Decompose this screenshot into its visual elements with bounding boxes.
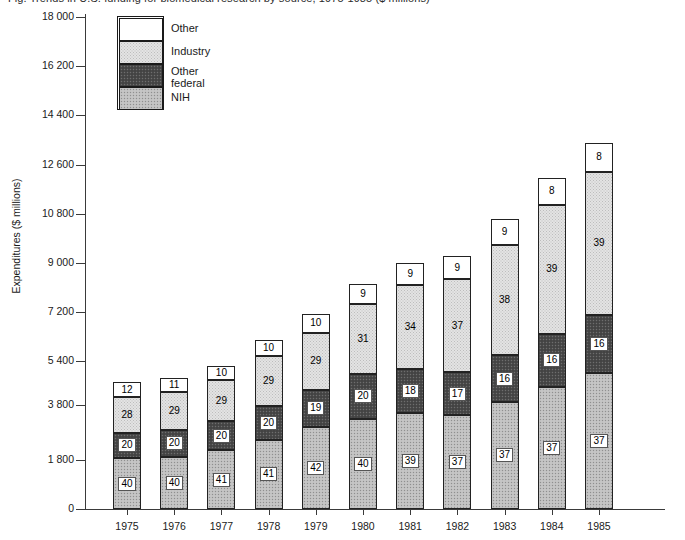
segment-other-federal-1982[interactable]: 17 xyxy=(443,372,471,415)
value-label: 37 xyxy=(543,441,560,455)
legend: OtherIndustryOther federalNIH xyxy=(117,16,237,112)
segment-nih-1981[interactable]: 39 xyxy=(396,413,424,509)
segment-other-federal-1978[interactable]: 20 xyxy=(255,406,283,440)
segment-other-1984[interactable]: 8 xyxy=(538,178,566,204)
segment-other-1980[interactable]: 9 xyxy=(349,284,377,304)
segment-nih-1978[interactable]: 41 xyxy=(255,440,283,509)
segment-nih-1985[interactable]: 37 xyxy=(585,373,613,509)
segment-other-federal-1979[interactable]: 19 xyxy=(302,390,330,427)
x-axis-label-1978: 1978 xyxy=(246,520,292,532)
value-label: 37 xyxy=(590,434,607,448)
value-label: 10 xyxy=(261,342,276,354)
legend-swatch-nih xyxy=(119,87,163,110)
segment-nih-1980[interactable]: 40 xyxy=(349,419,377,509)
segment-other-federal-1983[interactable]: 16 xyxy=(491,355,519,401)
segment-other-1979[interactable]: 10 xyxy=(302,314,330,334)
segment-nih-1984[interactable]: 37 xyxy=(538,387,566,509)
x-axis-label-1977: 1977 xyxy=(198,520,244,532)
segment-industry-1983[interactable]: 38 xyxy=(491,245,519,355)
x-axis-tick xyxy=(316,509,317,515)
y-axis-tick xyxy=(76,214,85,215)
legend-swatch-industry xyxy=(119,41,163,64)
legend-label-other-federal: Other federal xyxy=(171,66,205,89)
value-label: 16 xyxy=(543,353,560,367)
segment-other-1978[interactable]: 10 xyxy=(255,340,283,357)
value-label: 20 xyxy=(118,438,135,452)
y-axis-tick xyxy=(76,460,85,461)
legend-label-industry: Industry xyxy=(171,46,210,58)
segment-other-1983[interactable]: 9 xyxy=(491,219,519,245)
bar-1979[interactable]: 42192910 xyxy=(302,0,330,540)
y-axis-tick xyxy=(76,115,85,116)
segment-other-1976[interactable]: 11 xyxy=(160,378,188,392)
segment-other-1985[interactable]: 8 xyxy=(585,143,613,172)
segment-other-federal-1984[interactable]: 16 xyxy=(538,334,566,387)
value-label: 8 xyxy=(547,185,557,197)
segment-other-federal-1981[interactable]: 18 xyxy=(396,369,424,413)
segment-industry-1985[interactable]: 39 xyxy=(585,172,613,315)
y-axis-tick-label: 9 000 xyxy=(0,256,74,268)
x-axis-label-1984: 1984 xyxy=(529,520,575,532)
value-label: 40 xyxy=(166,476,183,490)
value-label: 31 xyxy=(355,333,370,345)
segment-other-federal-1977[interactable]: 20 xyxy=(207,421,235,450)
segment-other-federal-1975[interactable]: 20 xyxy=(113,433,141,458)
bar-1980[interactable]: 4020319 xyxy=(349,0,377,540)
segment-industry-1981[interactable]: 34 xyxy=(396,285,424,369)
x-axis-tick xyxy=(599,509,600,515)
segment-nih-1977[interactable]: 41 xyxy=(207,450,235,509)
x-axis-label-1985: 1985 xyxy=(576,520,622,532)
segment-nih-1983[interactable]: 37 xyxy=(491,402,519,509)
segment-nih-1976[interactable]: 40 xyxy=(160,457,188,509)
value-label: 39 xyxy=(544,263,559,275)
bar-1983[interactable]: 3716389 xyxy=(491,0,519,540)
segment-industry-1977[interactable]: 29 xyxy=(207,380,235,422)
bar-1981[interactable]: 3918349 xyxy=(396,0,424,540)
value-label: 37 xyxy=(496,448,513,462)
segment-other-federal-1976[interactable]: 20 xyxy=(160,430,188,456)
value-label: 20 xyxy=(166,436,183,450)
y-axis-tick xyxy=(76,66,85,67)
value-label: 12 xyxy=(119,384,134,396)
segment-other-1975[interactable]: 12 xyxy=(113,382,141,397)
segment-industry-1984[interactable]: 39 xyxy=(538,205,566,334)
value-label: 38 xyxy=(497,294,512,306)
y-axis-tick xyxy=(76,405,85,406)
value-label: 39 xyxy=(402,454,419,468)
segment-other-federal-1980[interactable]: 20 xyxy=(349,374,377,419)
x-axis-tick xyxy=(221,509,222,515)
segment-industry-1979[interactable]: 29 xyxy=(302,333,330,390)
y-axis-tick-label: 10 800 xyxy=(0,207,74,219)
value-label: 9 xyxy=(358,288,368,300)
segment-nih-1979[interactable]: 42 xyxy=(302,427,330,509)
segment-nih-1975[interactable]: 40 xyxy=(113,458,141,509)
y-axis-title: Expenditures ($ millions) xyxy=(10,116,22,356)
value-label: 29 xyxy=(214,395,229,407)
y-axis-tick xyxy=(76,509,85,510)
x-axis-tick xyxy=(552,509,553,515)
segment-industry-1975[interactable]: 28 xyxy=(113,397,141,433)
bar-1984[interactable]: 3716398 xyxy=(538,0,566,540)
value-label: 20 xyxy=(260,416,277,430)
x-axis-label-1975: 1975 xyxy=(104,520,150,532)
bar-1982[interactable]: 3717379 xyxy=(443,0,471,540)
value-label: 41 xyxy=(260,467,277,481)
segment-industry-1982[interactable]: 37 xyxy=(443,279,471,373)
segment-industry-1978[interactable]: 29 xyxy=(255,356,283,405)
segment-other-federal-1985[interactable]: 16 xyxy=(585,315,613,374)
segment-nih-1982[interactable]: 37 xyxy=(443,415,471,509)
value-label: 9 xyxy=(500,226,510,238)
segment-other-1982[interactable]: 9 xyxy=(443,256,471,279)
bar-1978[interactable]: 41202910 xyxy=(255,0,283,540)
value-label: 17 xyxy=(449,387,466,401)
segment-industry-1980[interactable]: 31 xyxy=(349,304,377,374)
segment-other-1977[interactable]: 10 xyxy=(207,366,235,380)
legend-label-other: Other xyxy=(171,23,199,35)
value-label: 18 xyxy=(402,384,419,398)
segment-other-1981[interactable]: 9 xyxy=(396,263,424,285)
y-axis-tick-label: 3 800 xyxy=(0,398,74,410)
bar-1985[interactable]: 3716398 xyxy=(585,0,613,540)
value-label: 20 xyxy=(213,429,230,443)
y-axis-tick-label: 14 400 xyxy=(0,108,74,120)
segment-industry-1976[interactable]: 29 xyxy=(160,392,188,430)
